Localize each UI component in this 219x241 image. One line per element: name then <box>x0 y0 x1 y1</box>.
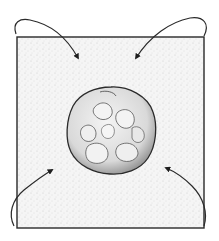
dough-ball <box>67 87 156 174</box>
fold-illustration <box>0 0 219 241</box>
fold-diagram: Square sheet with a lumpy round ball at … <box>0 0 219 241</box>
